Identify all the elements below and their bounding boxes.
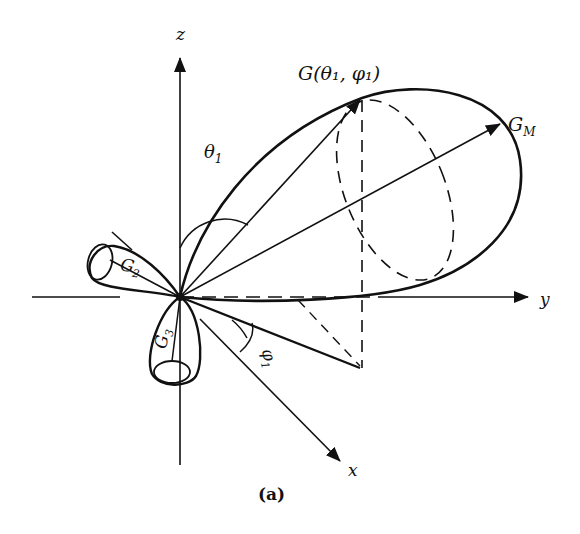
y-axis-label: y bbox=[539, 289, 550, 309]
x-axis: x bbox=[112, 232, 358, 480]
main-lobe bbox=[180, 83, 521, 301]
x-axis-label: x bbox=[348, 460, 358, 480]
origin-point bbox=[176, 293, 184, 301]
figure-caption: (a) bbox=[258, 484, 285, 504]
y-axis: y bbox=[32, 289, 550, 309]
z-axis: z bbox=[175, 24, 186, 465]
phi-label: φ1 bbox=[255, 346, 282, 370]
gain-vector bbox=[180, 100, 360, 297]
antenna-radiation-pattern-diagram: z y x θ1 φ1 G2 bbox=[0, 0, 580, 534]
side-lobe-g3: G3 bbox=[150, 297, 200, 385]
z-axis-label: z bbox=[175, 24, 186, 44]
g2-label: G2 bbox=[118, 254, 143, 281]
g3-label: G3 bbox=[150, 327, 176, 351]
gain-point-label: G(θ₁, φ₁) bbox=[298, 62, 380, 84]
theta-label: θ1 bbox=[204, 141, 222, 166]
